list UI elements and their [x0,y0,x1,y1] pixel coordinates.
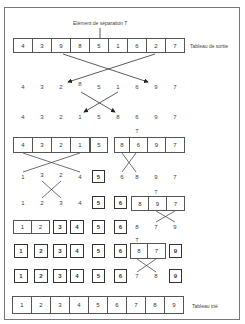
cell: 2 [31,220,50,234]
value: 9 [151,114,161,120]
sorted-label: Tableau trié [192,303,218,309]
fixed-cell: 4 [70,269,84,283]
sorted-cell: 4 [69,296,89,314]
value: 9 [151,84,161,90]
pivot-mark: T [133,128,141,134]
sorted-cell: 5 [88,296,108,314]
cell: 4 [13,137,33,153]
value: 2 [56,172,66,178]
value: 1 [75,114,85,120]
input-cell: 8 [70,38,90,53]
value: 8 [132,224,142,230]
fixed-cell: 2 [34,244,48,258]
value: 8 [75,81,85,87]
value: 4 [18,84,28,90]
fixed-cell: 5 [92,244,105,258]
value: 2 [37,200,47,206]
fixed-cell: 5 [92,269,105,283]
value: 7 [170,174,180,180]
fixed-cell: 3 [53,220,67,234]
cell: 3 [32,137,52,153]
fixed-cell: 4 [70,220,84,234]
value: 4 [75,200,85,206]
input-cell: 7 [165,38,185,53]
fixed-cell: 9 [169,269,182,283]
sorted-cell: 2 [31,296,51,314]
fixed-cell: 9 [169,244,182,258]
value: 4 [75,174,85,180]
value: 2 [56,114,66,120]
value: 8 [151,273,161,279]
pivot-cell: 5 [90,137,108,153]
cell: 7 [147,243,166,259]
fixed-cell: 6 [114,244,127,258]
cell: 7 [166,196,185,211]
cell: 1 [13,220,32,234]
cell: 9 [147,137,166,153]
sorted-cell: 3 [50,296,70,314]
cell: 2 [51,137,71,153]
value: 2 [56,84,66,90]
output-label: Tableau de sortie [190,43,228,49]
fixed-cell: 2 [34,269,48,283]
value: 3 [37,172,47,178]
value: 1 [18,200,28,206]
value: 7 [132,273,142,279]
input-cell: 1 [108,38,128,53]
value: 3 [37,84,47,90]
cell: 6 [129,137,148,153]
fixed-cell: 4 [70,244,84,258]
fixed-cell: 5 [92,170,105,183]
input-cell: 9 [51,38,71,53]
sorted-cell: 8 [145,296,165,314]
cell: 8 [114,137,130,153]
value: 9 [170,224,180,230]
value: 6 [117,174,127,180]
cell: 8 [131,196,149,211]
value: 6 [132,84,142,90]
value: 8 [113,114,123,120]
fixed-cell: 5 [92,220,105,234]
pivot-label: Elément de séparation T [73,20,127,26]
sorted-cell: 1 [12,296,32,314]
fixed-cell: 6 [114,220,127,234]
value: 3 [56,200,66,206]
input-cell: 2 [146,38,166,53]
value: 9 [151,174,161,180]
fixed-cell: 5 [92,196,105,209]
fixed-cell: 1 [14,269,28,283]
cell: 9 [148,196,167,211]
value: 1 [18,174,28,180]
input-cell: 6 [127,38,147,53]
value: 3 [37,114,47,120]
cell: 7 [165,137,185,153]
sorted-cell: 7 [126,296,146,314]
fixed-cell: 6 [114,269,127,283]
fixed-cell: 3 [53,244,67,258]
value: 5 [94,114,104,120]
input-cell: 5 [89,38,109,53]
cell: 8 [130,243,148,259]
fixed-cell: 3 [53,269,67,283]
value: 7 [170,114,180,120]
value: 5 [94,84,104,90]
fixed-cell: 1 [14,244,28,258]
input-cell: 4 [13,38,33,53]
value: 7 [151,224,161,230]
value: 8 [132,174,142,180]
value: 6 [132,114,142,120]
input-cell: 3 [32,38,52,53]
value: 4 [18,114,28,120]
cell: 1 [70,137,90,153]
fixed-cell: 6 [114,196,127,209]
sorted-cell: 9 [164,296,184,314]
value: 1 [113,84,123,90]
value: 7 [170,84,180,90]
sorted-cell: 6 [107,296,127,314]
pivot-mark: T [152,189,160,195]
